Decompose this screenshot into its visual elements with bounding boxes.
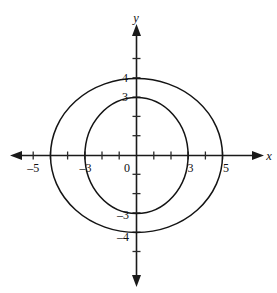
- down-arrow-icon: [132, 275, 141, 287]
- y-tick-label-minus3: –3: [116, 208, 129, 222]
- right-arrow-icon: [252, 151, 264, 160]
- x-tick-label-minus5: –5: [26, 161, 39, 175]
- y-tick-label-minus4: –4: [116, 230, 129, 244]
- coordinate-plane-svg: –5 –3 3 5 0 4 3 –3 –4 x y: [0, 0, 277, 293]
- x-tick-label-minus3: –3: [79, 161, 92, 175]
- y-axis-label: y: [131, 11, 139, 25]
- y-tick-label-4: 4: [122, 71, 128, 85]
- y-tick-label-3: 3: [122, 90, 128, 104]
- left-arrow-icon: [10, 151, 22, 160]
- up-arrow-icon: [132, 24, 141, 36]
- x-tick-label-3: 3: [188, 161, 194, 175]
- graph-figure: –5 –3 3 5 0 4 3 –3 –4 x y: [0, 0, 277, 293]
- origin-label: 0: [124, 161, 130, 175]
- x-axis-label: x: [265, 149, 272, 163]
- x-tick-label-5: 5: [223, 161, 229, 175]
